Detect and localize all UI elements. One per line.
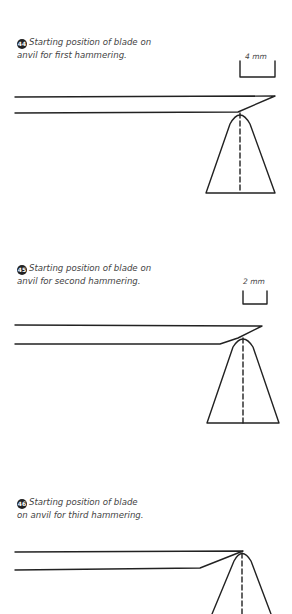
diagram-drawing — [0, 0, 292, 614]
blade-46 — [15, 551, 243, 570]
figure-44-drawing — [15, 61, 275, 193]
blade-44 — [15, 96, 275, 113]
scale-bracket-2mm — [243, 291, 267, 304]
figure-46-drawing — [15, 551, 271, 614]
scale-bracket-4mm — [240, 61, 275, 77]
figure-45-drawing — [15, 291, 279, 423]
blade-45 — [15, 325, 262, 344]
